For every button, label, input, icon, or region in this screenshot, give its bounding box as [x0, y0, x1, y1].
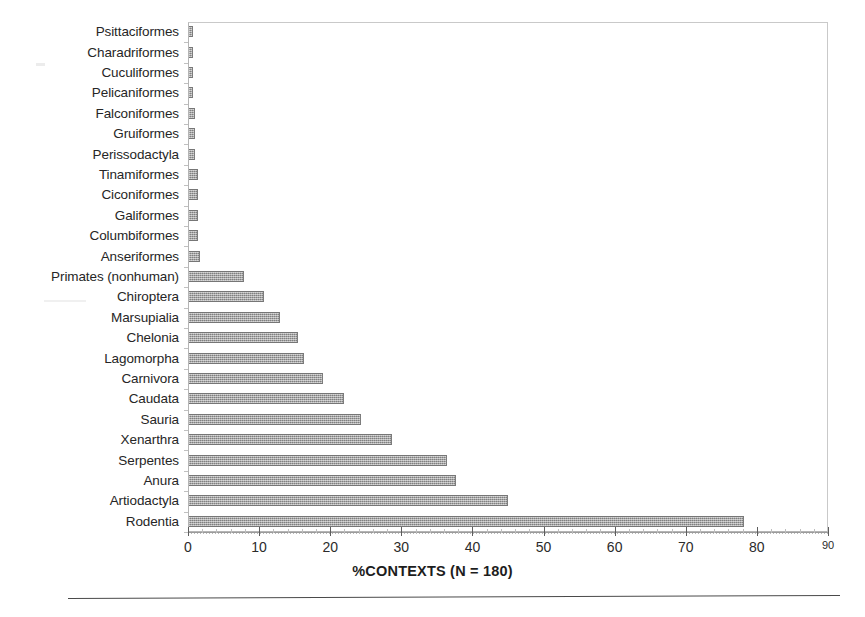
bar-row: Chelonia: [0, 329, 865, 347]
x-axis-minor-tick: [728, 529, 729, 533]
x-axis-tick-label: 50: [536, 539, 552, 555]
bar: [189, 291, 264, 302]
bar-row: Sauria: [0, 411, 865, 429]
bar-row: Serpentes: [0, 452, 865, 470]
bar: [189, 210, 198, 221]
bar: [189, 87, 193, 98]
bar-row: Columbiformes: [0, 227, 865, 245]
y-axis-tick: [184, 246, 188, 247]
bar-row: Cuculiformes: [0, 64, 865, 82]
x-axis-minor-tick: [430, 529, 431, 533]
x-axis-minor-tick: [273, 529, 274, 533]
bar-row: Chiroptera: [0, 288, 865, 306]
category-label: Rodentia: [0, 515, 179, 529]
x-axis-minor-tick: [359, 529, 360, 533]
y-axis-tick: [184, 328, 188, 329]
x-axis-tick: [188, 527, 189, 536]
category-label: Lagomorpha: [0, 352, 179, 366]
bar: [189, 149, 195, 160]
y-axis-tick: [184, 144, 188, 145]
bar: [189, 230, 198, 241]
y-axis-tick: [184, 124, 188, 125]
bar: [189, 67, 193, 78]
bar-row: Caudata: [0, 390, 865, 408]
category-label: Charadriformes: [0, 46, 179, 60]
bar: [189, 26, 193, 37]
category-label: Anura: [0, 474, 179, 488]
x-axis-minor-tick: [529, 529, 530, 533]
bar: [189, 353, 304, 364]
x-axis-minor-tick: [600, 529, 601, 533]
x-axis-minor-tick: [216, 529, 217, 533]
y-axis-tick: [184, 83, 188, 84]
y-axis-tick: [184, 42, 188, 43]
bar: [189, 47, 193, 58]
y-axis-tick: [184, 226, 188, 227]
x-axis-tick-label: 90: [822, 539, 834, 551]
category-label: Galiformes: [0, 209, 179, 223]
x-axis-minor-tick: [373, 529, 374, 533]
x-axis-tick-label: 0: [184, 539, 192, 555]
x-axis-title: %CONTEXTS (N = 180): [0, 563, 865, 579]
category-label: Falconiformes: [0, 107, 179, 121]
y-axis-tick: [184, 471, 188, 472]
x-axis-minor-tick: [771, 529, 772, 533]
bar: [189, 475, 456, 486]
x-axis-tick: [472, 527, 473, 536]
x-axis-minor-tick: [643, 529, 644, 533]
category-label: Columbiformes: [0, 229, 179, 243]
bar-row: Tinamiformes: [0, 166, 865, 184]
y-axis-tick: [184, 389, 188, 390]
x-axis-tick: [544, 527, 545, 536]
bar: [189, 169, 198, 180]
bar-row: Charadriformes: [0, 44, 865, 62]
bar-chart-figure: PsittaciformesCharadriformesCuculiformes…: [0, 0, 865, 617]
x-axis-tick-label: 80: [749, 539, 765, 555]
category-label: Xenarthra: [0, 433, 179, 447]
bar-row: Rodentia: [0, 513, 865, 531]
x-axis-tick: [615, 527, 616, 536]
bar: [189, 332, 298, 343]
bar-row: Carnivora: [0, 370, 865, 388]
bar-row: Xenarthra: [0, 431, 865, 449]
bar: [189, 312, 280, 323]
x-axis-minor-tick: [487, 529, 488, 533]
category-label: Perissodactyla: [0, 148, 179, 162]
x-axis-minor-tick: [629, 529, 630, 533]
x-axis-minor-tick: [231, 529, 232, 533]
y-axis-tick: [184, 369, 188, 370]
x-axis-tick-label: 20: [322, 539, 338, 555]
bar-row: Artiodactyla: [0, 492, 865, 510]
x-axis-tick: [259, 527, 260, 536]
bar-row: Falconiformes: [0, 105, 865, 123]
bar-row: Anura: [0, 472, 865, 490]
x-axis-tick-label: 10: [251, 539, 267, 555]
y-axis-tick: [184, 206, 188, 207]
x-axis-minor-tick: [800, 529, 801, 533]
category-label: Artiodactyla: [0, 494, 179, 508]
x-axis-tick: [330, 527, 331, 536]
x-axis-minor-tick: [344, 529, 345, 533]
bar-row: Galiformes: [0, 207, 865, 225]
x-axis-minor-tick: [515, 529, 516, 533]
x-axis-minor-tick: [387, 529, 388, 533]
category-label: Serpentes: [0, 454, 179, 468]
bar-row: Pelicaniformes: [0, 84, 865, 102]
x-axis-tick: [828, 527, 829, 536]
x-axis-tick: [757, 527, 758, 536]
y-axis-tick: [184, 450, 188, 451]
bar: [189, 495, 508, 506]
bar: [189, 373, 323, 384]
bar: [189, 516, 744, 527]
x-axis-minor-tick: [814, 529, 815, 533]
x-axis-dotted-line: [188, 533, 829, 534]
category-label: Tinamiformes: [0, 168, 179, 182]
x-axis-minor-tick: [700, 529, 701, 533]
x-axis-minor-tick: [572, 529, 573, 533]
x-axis-tick: [686, 527, 687, 536]
bar-row: Primates (nonhuman): [0, 268, 865, 286]
bottom-horizontal-rule: [68, 595, 840, 599]
y-axis-tick: [184, 308, 188, 309]
y-axis-tick: [184, 430, 188, 431]
y-axis-tick: [184, 410, 188, 411]
